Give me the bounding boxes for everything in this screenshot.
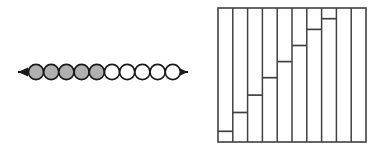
figure-canvas (0, 0, 380, 152)
bead-shaded-3 (59, 64, 74, 79)
bead-unshaded-9 (150, 64, 165, 79)
bead-shaded-4 (74, 64, 89, 79)
bead-unshaded-6 (104, 64, 119, 79)
bead-shaded-1 (28, 64, 43, 79)
left-arrowhead-icon (18, 68, 28, 77)
bead-unshaded-8 (135, 64, 150, 79)
bead-shaded-2 (44, 64, 59, 79)
bead-group (28, 64, 180, 79)
bead-shaded-5 (89, 64, 104, 79)
staircase-column-chart (218, 8, 366, 142)
figure-page (0, 0, 380, 152)
bead-number-line (18, 64, 188, 79)
bead-unshaded-10 (165, 64, 180, 79)
bead-unshaded-7 (120, 64, 135, 79)
